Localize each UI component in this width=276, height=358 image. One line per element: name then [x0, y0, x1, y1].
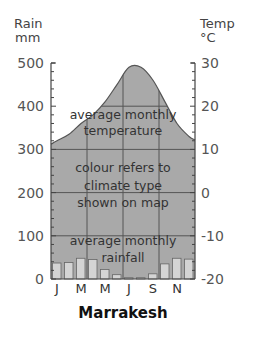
rainfall-bar [89, 260, 98, 279]
temp-tick-label: -20 [201, 271, 224, 287]
temp-axis-title: Temp [199, 16, 235, 31]
month-label: J [54, 281, 59, 296]
rainfall-bar [161, 264, 170, 279]
rainfall-bar [53, 263, 62, 279]
month-label: M [99, 281, 110, 296]
temp-tick-label: 10 [201, 141, 219, 157]
rainfall-bar [77, 258, 86, 279]
rain-tick-label: 100 [17, 228, 44, 244]
month-label: S [149, 281, 157, 296]
temp-annotation-2: temperature [84, 123, 163, 138]
temp-tick-label: 30 [201, 55, 219, 71]
climate-annotation-3: shown on map [77, 195, 169, 210]
rainfall-bar [65, 263, 74, 279]
rainfall-bar [173, 258, 182, 279]
rainfall-bar [185, 259, 194, 279]
month-label: N [172, 281, 182, 296]
chart-title: Marrakesh [78, 304, 167, 322]
climate-annotation-1: colour refers to [75, 160, 171, 175]
month-label: M [75, 281, 86, 296]
rain-annotation-1: average monthly [70, 233, 177, 248]
temp-tick-label: -10 [201, 228, 224, 244]
rainfall-bar [113, 275, 122, 279]
temp-axis-unit: °C [200, 30, 216, 45]
rain-tick-label: 0 [35, 271, 44, 287]
rainfall-bar [149, 274, 158, 279]
annotations: average monthly temperature colour refer… [70, 107, 177, 265]
rain-annotation-2: rainfall [101, 250, 144, 265]
climate-chart: Rain mm Temp °C 0100200300400500 -20-100… [0, 0, 276, 358]
climate-annotation-2: climate type [84, 178, 162, 193]
rain-axis: 0100200300400500 [17, 55, 56, 287]
temp-tick-label: 20 [201, 98, 219, 114]
rain-tick-label: 500 [17, 55, 44, 71]
rainfall-bar [101, 269, 110, 279]
rain-tick-label: 300 [17, 141, 44, 157]
rain-tick-label: 400 [17, 98, 44, 114]
month-label: J [126, 281, 131, 296]
month-axis: JMMJSN [54, 281, 182, 296]
rain-axis-title: Rain [14, 16, 43, 31]
rain-axis-unit: mm [15, 30, 40, 45]
temp-tick-label: 0 [201, 185, 210, 201]
temp-annotation-1: average monthly [70, 107, 177, 122]
rain-tick-label: 200 [17, 185, 44, 201]
